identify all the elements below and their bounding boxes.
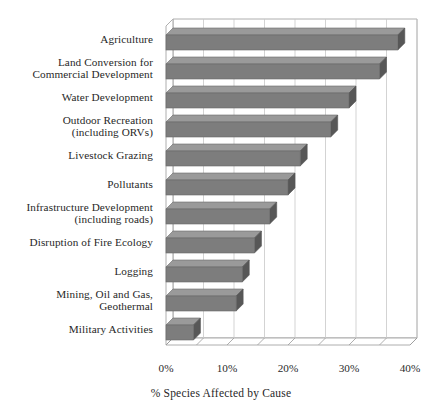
category-label-line: Geothermal <box>0 300 153 312</box>
bar <box>166 318 200 340</box>
category-label-line: Land Conversion for <box>0 56 153 68</box>
category-label-line: Water Development <box>0 91 153 103</box>
y-axis-category-label: Outdoor Recreation(including ORVs) <box>0 114 153 139</box>
bar <box>166 57 387 79</box>
bar <box>166 115 338 137</box>
y-axis-category-label: Disruption of Fire Ecology <box>0 236 153 248</box>
x-axis-title: % Species Affected by Cause <box>0 387 442 399</box>
y-axis-category-label: Mining, Oil and Gas,Geothermal <box>0 288 153 313</box>
category-label-line: (including ORVs) <box>0 126 153 138</box>
bar <box>166 144 307 166</box>
bar <box>166 231 261 253</box>
y-axis-category-label: Military Activities <box>0 323 153 335</box>
bar <box>166 202 277 224</box>
bar <box>166 289 243 311</box>
bar-chart: AgricultureLand Conversion forCommercial… <box>0 0 442 416</box>
category-label-line: Agriculture <box>0 33 153 45</box>
y-axis-category-label: Logging <box>0 265 153 277</box>
category-label-line: Livestock Grazing <box>0 149 153 161</box>
x-axis-tick-label: 40% <box>400 362 421 374</box>
category-label-line: Military Activities <box>0 323 153 335</box>
x-axis-tick-labels: 0%10%20%30%40% <box>0 362 442 380</box>
y-axis-category-label: Pollutants <box>0 178 153 190</box>
x-axis-tick-label: 30% <box>339 362 360 374</box>
category-label-line: Disruption of Fire Ecology <box>0 236 153 248</box>
y-axis-category-label: Land Conversion forCommercial Developmen… <box>0 56 153 81</box>
x-axis-tick-label: 10% <box>217 362 238 374</box>
y-axis-category-label: Agriculture <box>0 33 153 45</box>
category-label-line: Mining, Oil and Gas, <box>0 288 153 300</box>
category-label-line: Infrastructure Development <box>0 201 153 213</box>
y-axis-category-label: Infrastructure Development(including roa… <box>0 201 153 226</box>
plot-area <box>160 14 425 359</box>
category-label-line: Pollutants <box>0 178 153 190</box>
category-label-line: Commercial Development <box>0 68 153 80</box>
category-label-line: Outdoor Recreation <box>0 114 153 126</box>
category-label-line: (including roads) <box>0 213 153 225</box>
y-axis-category-label: Livestock Grazing <box>0 149 153 161</box>
x-axis-tick-label: 20% <box>278 362 299 374</box>
x-axis-tick-label: 0% <box>159 362 174 374</box>
plot-svg <box>160 14 425 359</box>
y-axis-category-labels: AgricultureLand Conversion forCommercial… <box>0 20 157 350</box>
category-label-line: Logging <box>0 265 153 277</box>
bar <box>166 28 405 50</box>
y-axis-category-label: Water Development <box>0 91 153 103</box>
bar <box>166 260 249 282</box>
bar <box>166 86 356 108</box>
bar <box>166 173 295 195</box>
